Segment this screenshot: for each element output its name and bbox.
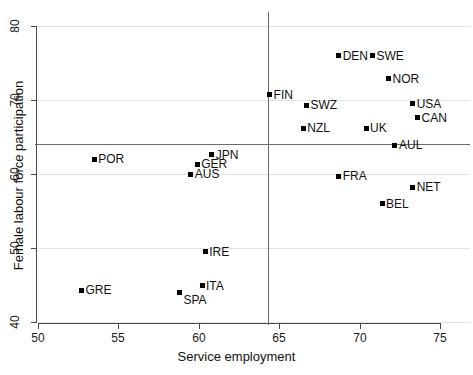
data-point-label: ITA xyxy=(206,280,224,292)
data-point-label: CAN xyxy=(421,112,446,124)
data-point-label: SPA xyxy=(184,294,207,306)
gridline-horizontal xyxy=(38,26,470,27)
x-axis-tick-label: 70 xyxy=(340,331,380,345)
data-point-marker[interactable] xyxy=(203,249,208,254)
data-point-label: BEL xyxy=(386,198,409,210)
data-point-label: FIN xyxy=(274,89,293,101)
data-point-marker[interactable] xyxy=(364,126,369,131)
x-axis-tick xyxy=(440,324,441,329)
data-point-marker[interactable] xyxy=(209,152,214,157)
x-axis-tick-label: 60 xyxy=(179,331,219,345)
data-point-marker[interactable] xyxy=(336,53,341,58)
data-point-marker[interactable] xyxy=(304,103,309,108)
data-point-marker[interactable] xyxy=(267,92,272,97)
data-point-label: FRA xyxy=(343,170,367,182)
x-axis-tick-label: 75 xyxy=(420,331,460,345)
data-point-label: POR xyxy=(98,153,124,165)
data-point-marker[interactable] xyxy=(177,290,182,295)
data-point-marker[interactable] xyxy=(79,288,84,293)
data-point-label: AUL xyxy=(399,139,422,151)
x-axis-tick xyxy=(38,324,39,329)
data-point-label: UK xyxy=(370,122,387,134)
y-axis-tick-label: 80 xyxy=(9,13,21,39)
x-axis-tick xyxy=(279,324,280,329)
data-point-marker[interactable] xyxy=(392,143,397,148)
x-axis-title: Service employment xyxy=(0,349,473,364)
data-point-marker[interactable] xyxy=(410,185,415,190)
data-point-marker[interactable] xyxy=(92,157,97,162)
data-point-label: SWZ xyxy=(311,99,338,111)
data-point-marker[interactable] xyxy=(380,201,385,206)
data-point-label: USA xyxy=(417,98,442,110)
data-point-marker[interactable] xyxy=(415,115,420,120)
x-axis-tick xyxy=(199,324,200,329)
reference-line-vertical xyxy=(268,12,269,325)
data-point-label: NZL xyxy=(307,122,330,134)
data-point-marker[interactable] xyxy=(200,283,205,288)
x-axis-tick-label: 55 xyxy=(98,331,138,345)
x-axis-line xyxy=(38,323,441,324)
y-axis-line xyxy=(36,26,37,323)
data-point-marker[interactable] xyxy=(336,174,341,179)
x-axis-tick xyxy=(118,324,119,329)
data-point-label: JPN xyxy=(216,149,239,161)
x-axis-tick-label: 50 xyxy=(18,331,58,345)
x-axis-tick xyxy=(360,324,361,329)
y-axis-title: Female labour force participation xyxy=(11,76,26,276)
data-point-marker[interactable] xyxy=(410,101,415,106)
data-point-label: NET xyxy=(417,181,441,193)
data-point-label: DEN xyxy=(343,50,368,62)
gridline-horizontal xyxy=(38,100,470,101)
data-point-marker[interactable] xyxy=(386,76,391,81)
data-point-label: IRE xyxy=(209,246,229,258)
data-point-marker[interactable] xyxy=(370,53,375,58)
scatter-plot-figure: 4050607080505560657075GREPORSPAAUSGERITA… xyxy=(0,0,473,375)
x-axis-tick-label: 65 xyxy=(259,331,299,345)
data-point-marker[interactable] xyxy=(195,162,200,167)
plot-area: 4050607080505560657075GREPORSPAAUSGERITA… xyxy=(0,0,473,375)
data-point-label: NOR xyxy=(393,73,420,85)
data-point-marker[interactable] xyxy=(188,172,193,177)
gridline-horizontal xyxy=(38,248,470,249)
gridline-horizontal xyxy=(38,174,470,175)
data-point-label: SWE xyxy=(376,50,403,62)
data-point-label: GRE xyxy=(85,284,111,296)
data-point-marker[interactable] xyxy=(301,126,306,131)
